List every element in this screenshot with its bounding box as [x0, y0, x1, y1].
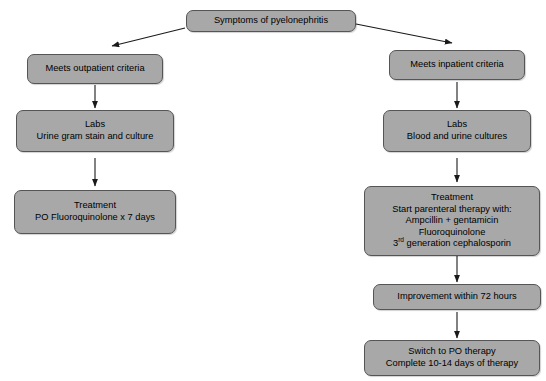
node-inpatient-treatment-line-2: Start parenteral therapy with:	[392, 204, 511, 216]
node-outpatient-labs-line-2: Urine gram stain and culture	[37, 131, 154, 143]
node-outpatient-treatment-line-2: PO Fluoroquinolone x 7 days	[35, 212, 155, 224]
node-improvement-within-72-hours[interactable]: Improvement within 72 hours	[373, 284, 541, 310]
node-improvement-line-1: Improvement within 72 hours	[397, 291, 516, 303]
node-meets-inpatient-criteria[interactable]: Meets inpatient criteria	[389, 50, 525, 80]
node-inpatient-treatment-line-5: 3rd generation cephalosporin	[393, 238, 511, 250]
node-inpatient-treatment-line-3: Ampcillin + gentamicin	[406, 215, 499, 227]
node-inpatient-treatment-line-1: Treatment	[431, 192, 473, 204]
node-meets-outpatient-criteria-line-1: Meets outpatient criteria	[45, 63, 144, 75]
node-outpatient-treatment-line-1: Treatment	[74, 200, 116, 212]
flowchart-canvas: Symptoms of pyelonephritis Meets outpati…	[0, 0, 546, 381]
node-inpatient-treatment-line-4: Fluoroquinolone	[419, 227, 486, 239]
node-switch-to-po-therapy[interactable]: Switch to PO therapy Complete 10-14 days…	[364, 340, 540, 376]
edge-symptoms-to-outpatient	[112, 28, 185, 46]
cephalosporin-generation-text: generation cephalosporin	[404, 238, 511, 248]
edge-symptoms-to-inpatient	[356, 24, 452, 43]
node-inpatient-labs[interactable]: Labs Blood and urine cultures	[383, 110, 531, 152]
node-meets-inpatient-criteria-line-1: Meets inpatient criteria	[410, 59, 504, 71]
node-meets-outpatient-criteria[interactable]: Meets outpatient criteria	[27, 54, 163, 84]
node-inpatient-treatment[interactable]: Treatment Start parenteral therapy with:…	[364, 186, 540, 256]
node-symptoms-line-1: Symptoms of pyelonephritis	[214, 15, 328, 27]
node-outpatient-treatment[interactable]: Treatment PO Fluoroquinolone x 7 days	[14, 190, 176, 234]
node-inpatient-labs-line-1: Labs	[447, 119, 467, 131]
node-switch-to-po-therapy-line-2: Complete 10-14 days of therapy	[386, 358, 518, 370]
node-inpatient-labs-line-2: Blood and urine cultures	[407, 131, 507, 143]
node-symptoms[interactable]: Symptoms of pyelonephritis	[186, 10, 356, 32]
node-outpatient-labs-line-1: Labs	[85, 119, 105, 131]
node-switch-to-po-therapy-line-1: Switch to PO therapy	[408, 346, 495, 358]
node-outpatient-labs[interactable]: Labs Urine gram stain and culture	[16, 110, 174, 152]
